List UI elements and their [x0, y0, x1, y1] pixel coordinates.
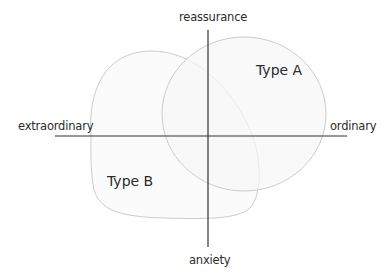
axis-label-bottom: anxiety: [189, 253, 230, 267]
axis-label-right: ordinary: [330, 119, 376, 133]
type-a-region: [162, 37, 326, 191]
axis-label-left: extraordinary: [18, 119, 93, 133]
axis-label-top: reassurance: [179, 10, 247, 24]
region-label-type-a: Type A: [256, 62, 302, 78]
diagram-canvas: reassurance anxiety extraordinary ordina…: [0, 0, 385, 279]
region-label-type-b: Type B: [107, 173, 153, 189]
